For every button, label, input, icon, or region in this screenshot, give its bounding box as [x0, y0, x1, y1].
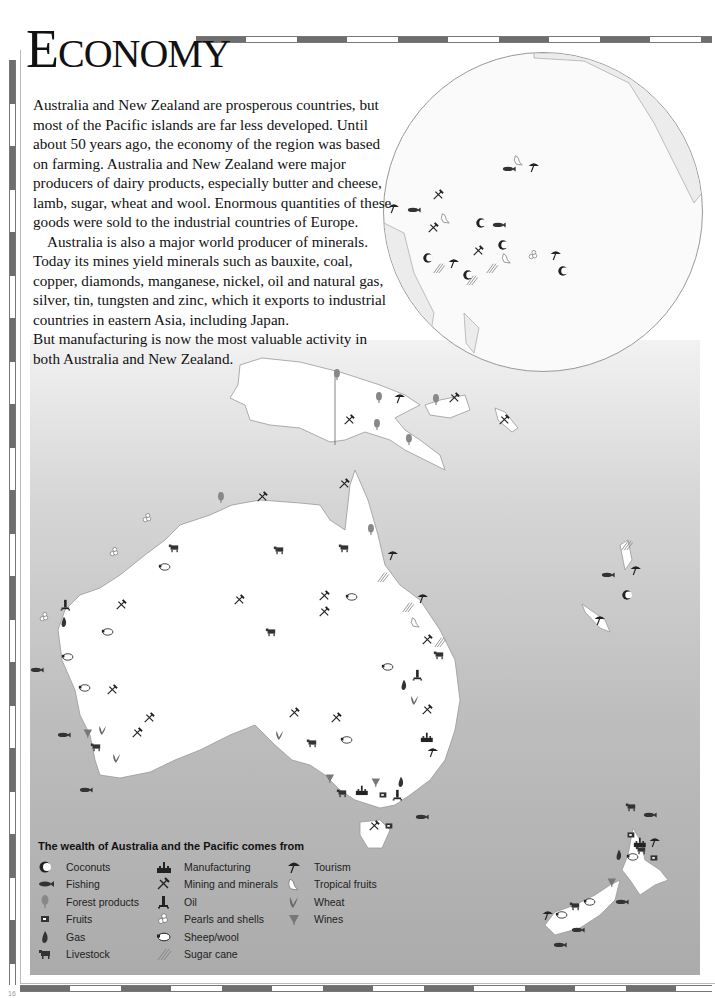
legend-label: Coconuts	[66, 861, 110, 873]
pacific-globe-inset	[383, 52, 703, 372]
fish-icon	[38, 878, 54, 891]
fruit-icon	[651, 855, 658, 860]
legend-item: Livestock	[38, 946, 156, 964]
oil-rig-icon	[156, 895, 172, 908]
tree-icon	[218, 492, 224, 503]
fish-icon	[503, 166, 516, 171]
new-britain-island	[425, 395, 470, 418]
factory-icon	[156, 860, 172, 873]
pick-hammer-icon	[474, 246, 483, 255]
legend-column: TourismTropical fruitsWheatWines	[286, 858, 377, 963]
legend-item: Pearls and shells	[156, 911, 286, 929]
fish-icon	[416, 814, 429, 819]
umbrella-icon	[551, 251, 561, 260]
tropical-fruit-icon	[286, 878, 302, 891]
solomon-islands	[495, 408, 518, 432]
legend-label: Forest products	[66, 896, 139, 908]
sheep-icon	[102, 629, 113, 635]
sheep-icon	[159, 564, 170, 570]
wheat-icon	[286, 895, 302, 908]
umbrella-icon	[286, 860, 302, 873]
coconut-icon	[622, 590, 632, 599]
legend-item: Manufacturing	[156, 858, 286, 876]
sheep-icon	[346, 594, 357, 600]
nz-edge	[464, 313, 479, 353]
gas-flame-icon	[38, 930, 54, 943]
nz-south-island	[545, 880, 620, 935]
coconut-icon	[558, 266, 568, 275]
legend-label: Tourism	[314, 861, 351, 873]
wine-glass-icon	[286, 913, 302, 926]
pearl-icon	[40, 612, 48, 620]
sheep-icon	[156, 930, 172, 943]
sheep-icon	[627, 854, 638, 860]
umbrella-icon	[650, 838, 660, 847]
coconut-icon	[423, 253, 433, 262]
legend-item: Fishing	[38, 876, 156, 894]
legend-item: Tropical fruits	[286, 876, 377, 894]
map-legend: The wealth of Australia and the Pacific …	[38, 840, 398, 963]
coconut-icon	[38, 860, 54, 873]
intro-text: Australia and New Zealand are prosperous…	[33, 95, 393, 368]
umbrella-icon	[631, 566, 641, 575]
fish-icon	[616, 899, 629, 904]
sugar-cane-icon	[434, 264, 445, 273]
pearl-icon	[110, 547, 118, 555]
intro-paragraph-3: But manufacturing is now the most valuab…	[33, 329, 393, 368]
pearl-icon	[143, 513, 151, 521]
fish-icon	[31, 667, 44, 672]
coconut-icon	[476, 218, 486, 227]
fruit-icon	[628, 832, 635, 837]
pick-hammer-icon	[429, 223, 438, 232]
legend-item: Wheat	[286, 893, 377, 911]
tropical-fruit-icon	[502, 254, 510, 263]
legend-item: Wines	[286, 911, 377, 929]
cow-icon	[337, 790, 346, 798]
fish-icon	[644, 812, 657, 817]
globe-resource-icons	[389, 156, 568, 285]
legend-label: Sugar cane	[184, 948, 238, 960]
umbrella-icon	[388, 551, 398, 560]
tree-icon	[38, 895, 54, 908]
pearl-icon	[156, 913, 172, 926]
oil-rig-icon	[61, 600, 70, 611]
sheep-icon	[556, 912, 567, 918]
nz-north-island	[622, 828, 668, 895]
cow-icon	[626, 804, 635, 812]
fruit-icon	[380, 792, 387, 797]
pick-hammer-icon	[340, 479, 349, 488]
legend-label: Gas	[66, 931, 85, 943]
fish-icon	[602, 572, 615, 577]
legend-label: Fruits	[66, 913, 92, 925]
sheep-icon	[382, 664, 393, 670]
tropical-fruit-icon	[441, 214, 449, 223]
pick-hammer-icon	[434, 190, 443, 199]
fish-icon	[554, 942, 567, 947]
sugar-cane-icon	[156, 948, 172, 961]
legend-item: Coconuts	[38, 858, 156, 876]
sheep-icon	[341, 737, 352, 743]
legend-item: Tourism	[286, 858, 377, 876]
page-number: 16	[8, 990, 16, 997]
fruit-icon	[386, 823, 393, 828]
cow-icon	[38, 948, 54, 961]
pearl-icon	[529, 250, 537, 258]
sheep-icon	[584, 899, 595, 905]
umbrella-icon	[529, 163, 539, 172]
tropical-fruit-icon	[514, 156, 522, 165]
legend-item: Sheep/wool	[156, 928, 286, 946]
legend-column: ManufacturingMining and mineralsOilPearl…	[156, 858, 286, 963]
gas-flame-icon	[617, 850, 622, 860]
legend-label: Wines	[314, 913, 343, 925]
legend-item: Fruits	[38, 911, 156, 929]
legend-columns: CoconutsFishingForest productsFruitsGasL…	[38, 858, 398, 963]
fish-icon	[80, 787, 93, 792]
legend-item: Mining and minerals	[156, 876, 286, 894]
legend-column: CoconutsFishingForest productsFruitsGasL…	[38, 858, 156, 963]
legend-item: Oil	[156, 893, 286, 911]
sugar-cane-icon	[487, 264, 498, 273]
fish-icon	[493, 222, 506, 227]
legend-label: Sheep/wool	[184, 931, 239, 943]
intro-paragraph-2: Australia is also a major world producer…	[33, 232, 393, 330]
globe-map	[384, 53, 702, 371]
